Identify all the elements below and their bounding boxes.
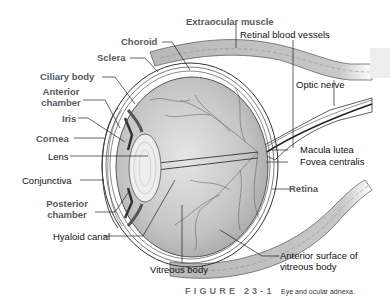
label-conjunctiva: Conjunctiva — [22, 175, 72, 186]
label-cornea: Cornea — [36, 133, 69, 144]
page-edge-shade — [370, 48, 390, 78]
label-anterior-chamber-line1: Anterior — [38, 86, 84, 97]
label-extraocular-muscle: Extraocular muscle — [186, 16, 274, 27]
label-anterior-surface-line1: Anterior surface of — [280, 250, 358, 261]
label-posterior-chamber-line2: chamber — [43, 209, 91, 220]
label-optic-nerve: Optic nerve — [296, 79, 345, 90]
label-posterior-chamber: Posterior chamber — [43, 198, 91, 220]
label-posterior-chamber-line1: Posterior — [43, 198, 91, 209]
figure-number: FIGURE 23-1 — [185, 286, 275, 296]
label-sclera: Sclera — [97, 52, 126, 63]
label-fovea-centralis: Fovea centralis — [300, 156, 364, 167]
label-iris: Iris — [62, 113, 76, 124]
label-macula-lutea: Macula lutea — [300, 144, 354, 155]
label-anterior-chamber: Anterior chamber — [38, 86, 84, 108]
label-choroid: Choroid — [121, 36, 157, 47]
figure-caption: FIGURE 23-1Eye and ocular adnexa. — [185, 280, 365, 296]
label-retinal-blood-vessels: Retinal blood vessels — [240, 29, 330, 40]
label-vitreous-body: Vitreous body — [150, 264, 208, 275]
label-anterior-chamber-line2: chamber — [38, 97, 84, 108]
label-retina: Retina — [289, 183, 318, 194]
figure-title: Eye and ocular adnexa. — [281, 287, 355, 296]
label-anterior-surface-vitreous: Anterior surface of vitreous body — [280, 250, 358, 272]
label-anterior-surface-line2: vitreous body — [280, 261, 358, 272]
label-ciliary-body: Ciliary body — [40, 71, 94, 82]
label-lens: Lens — [48, 151, 69, 162]
label-hyaloid-canal: Hyaloid canal — [53, 231, 110, 242]
